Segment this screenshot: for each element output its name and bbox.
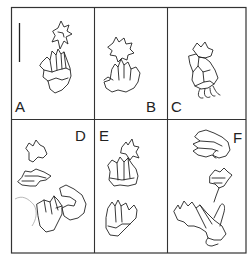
drawing-f-mid-detail [212,178,225,183]
panel-label-c: C [171,98,182,115]
panel-label-f: F [233,129,242,146]
drawing-d-fibre [15,197,36,226]
panel-d: D [15,127,86,232]
drawing-d-lower-left [37,196,62,232]
panel-b: B [104,37,156,115]
panel-label-d: D [75,127,86,144]
panel-label-e: E [99,127,109,144]
drawing-c-fingers [198,86,220,98]
drawing-e-middle [108,157,138,186]
figure-frame [12,8,247,254]
panel-label-a: A [15,98,25,115]
panel-a: A [15,21,72,115]
panel-f: F [174,129,242,246]
drawing-b-lower [104,59,140,92]
drawing-d-upper [26,140,47,162]
drawing-e-lower-detail [108,206,130,228]
drawing-f-upper [193,130,230,158]
drawing-d-middle [18,169,51,186]
figure-plate: A B C D E [0,0,252,262]
drawing-c-upper [193,42,213,58]
panel-label-b: B [146,98,156,115]
drawing-b-upper [108,37,134,62]
drawing-c-detail [193,57,214,86]
drawing-a-upper [52,21,72,49]
drawing-d-lower-right [60,185,86,220]
drawing-b-detail [104,65,131,80]
drawing-f-connector [214,188,219,202]
drawing-d-lower-detail [44,196,62,214]
panel-e: E [99,127,139,236]
panel-c: C [171,42,220,115]
drawing-f-lower [174,201,226,240]
drawing-e-upper [121,139,139,160]
